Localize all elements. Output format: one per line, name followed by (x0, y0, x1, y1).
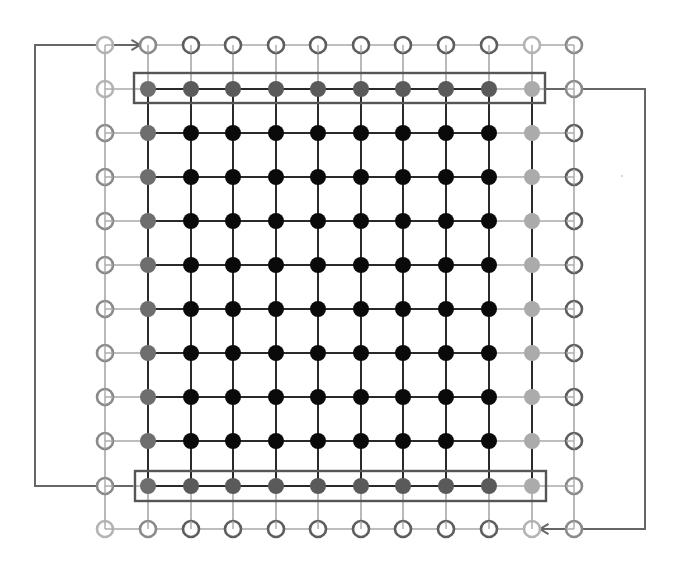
interior-node (438, 257, 454, 273)
interior-node (395, 169, 411, 185)
interior-node (481, 125, 497, 141)
interior-node (225, 433, 241, 449)
interior-node (438, 389, 454, 405)
interior-node (225, 169, 241, 185)
interior-node (268, 257, 284, 273)
interior-node (310, 213, 326, 229)
boundary-node (524, 257, 540, 273)
boundary-node (183, 478, 199, 494)
boundary-node (140, 213, 156, 229)
interior-node (225, 257, 241, 273)
boundary-node (524, 433, 540, 449)
interior-node (481, 213, 497, 229)
boundary-node (524, 125, 540, 141)
interior-node (395, 125, 411, 141)
boundary-node (310, 81, 326, 97)
boundary-node (268, 478, 284, 494)
boundary-node (395, 81, 411, 97)
grid-nodes (97, 37, 623, 537)
interior-node (481, 169, 497, 185)
stray-speck (621, 175, 623, 177)
interior-node (481, 257, 497, 273)
interior-node (310, 169, 326, 185)
interior-node (183, 257, 199, 273)
boundary-node (225, 478, 241, 494)
interior-node (183, 213, 199, 229)
interior-node (183, 125, 199, 141)
interior-node (268, 345, 284, 361)
interior-node (268, 125, 284, 141)
boundary-node (140, 389, 156, 405)
interior-node (438, 125, 454, 141)
interior-node (310, 257, 326, 273)
interior-node (268, 213, 284, 229)
interior-node (183, 169, 199, 185)
interior-node (353, 301, 369, 317)
interior-node (438, 213, 454, 229)
boundary-node (140, 257, 156, 273)
interior-node (268, 169, 284, 185)
interior-node (353, 257, 369, 273)
interior-node (481, 301, 497, 317)
boundary-node (183, 81, 199, 97)
interior-node (481, 389, 497, 405)
boundary-node (353, 81, 369, 97)
boundary-node (140, 478, 156, 494)
interior-node (438, 345, 454, 361)
boundary-node (524, 213, 540, 229)
interior-node (225, 389, 241, 405)
boundary-node (140, 81, 156, 97)
boundary-node (481, 81, 497, 97)
boundary-node (353, 478, 369, 494)
boundary-node (524, 389, 540, 405)
boundary-node (140, 125, 156, 141)
interior-node (395, 213, 411, 229)
boundary-node (481, 478, 497, 494)
interior-node (353, 433, 369, 449)
interior-node (310, 389, 326, 405)
boundary-node (524, 81, 540, 97)
boundary-node (524, 478, 540, 494)
interior-node (183, 301, 199, 317)
boundary-node (524, 301, 540, 317)
interior-node (183, 433, 199, 449)
boundary-node (268, 81, 284, 97)
boundary-node (310, 478, 326, 494)
interior-node (225, 125, 241, 141)
boundary-node (140, 433, 156, 449)
interior-node (225, 213, 241, 229)
boundary-node (140, 345, 156, 361)
interior-node (310, 345, 326, 361)
periodic-boundary-arrows (35, 40, 645, 534)
interior-node (310, 433, 326, 449)
boundary-node (140, 169, 156, 185)
boundary-node (438, 478, 454, 494)
boundary-node (395, 478, 411, 494)
interior-node (310, 125, 326, 141)
interior-node (353, 345, 369, 361)
bottom-row-to-top-ghost-arrow (35, 40, 140, 486)
boundary-node (140, 301, 156, 317)
interior-node (438, 169, 454, 185)
interior-node (395, 389, 411, 405)
interior-node (438, 433, 454, 449)
interior-node (353, 213, 369, 229)
boundary-node (524, 169, 540, 185)
interior-node (481, 433, 497, 449)
interior-node (395, 301, 411, 317)
interior-node (225, 301, 241, 317)
interior-node (353, 169, 369, 185)
interior-node (438, 301, 454, 317)
interior-node (395, 257, 411, 273)
interior-node (268, 301, 284, 317)
interior-node (183, 345, 199, 361)
interior-node (353, 389, 369, 405)
boundary-node (438, 81, 454, 97)
boundary-node (225, 81, 241, 97)
grid-edges (105, 45, 574, 529)
interior-node (481, 345, 497, 361)
interior-node (395, 433, 411, 449)
top-row-to-bottom-ghost-arrow (540, 89, 645, 534)
boundary-node (524, 345, 540, 361)
interior-node (268, 389, 284, 405)
